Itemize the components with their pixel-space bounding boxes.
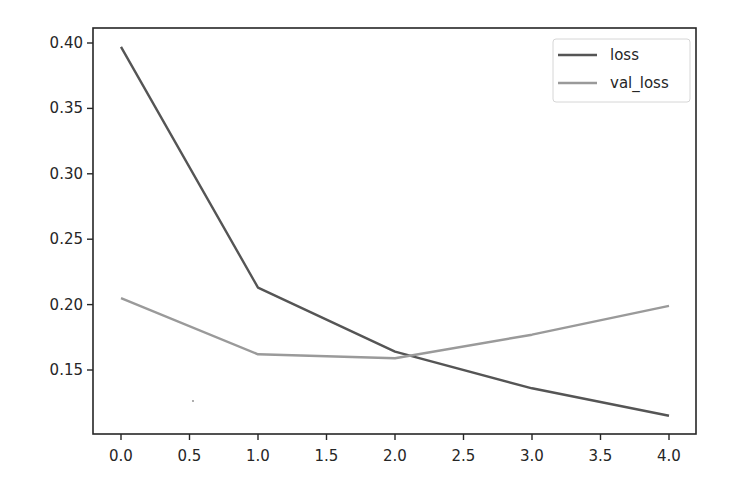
x-tick-label: 0.5 <box>178 447 202 465</box>
y-tick-label: 0.25 <box>50 230 83 248</box>
x-tick-label: 4.0 <box>657 447 681 465</box>
y-axis: 0.150.200.250.300.350.40 <box>50 34 93 379</box>
stray-dot <box>192 400 194 402</box>
x-tick-label: 3.0 <box>520 447 544 465</box>
x-tick-label: 2.5 <box>452 447 476 465</box>
x-axis: 0.00.51.01.52.02.53.03.54.0 <box>109 434 681 465</box>
x-tick-label: 3.5 <box>589 447 613 465</box>
y-tick-label: 0.15 <box>50 361 83 379</box>
line-chart: 0.150.200.250.300.350.40 0.00.51.01.52.0… <box>0 0 731 489</box>
x-tick-label: 2.0 <box>383 447 407 465</box>
y-tick-label: 0.35 <box>50 99 83 117</box>
legend-label: val_loss <box>610 74 669 93</box>
legend-label: loss <box>610 46 639 64</box>
y-tick-label: 0.30 <box>50 165 83 183</box>
x-tick-label: 1.5 <box>315 447 339 465</box>
x-tick-label: 0.0 <box>109 447 133 465</box>
y-tick-label: 0.40 <box>50 34 83 52</box>
x-tick-label: 1.0 <box>246 447 270 465</box>
legend: lossval_loss <box>553 39 690 102</box>
y-tick-label: 0.20 <box>50 296 83 314</box>
